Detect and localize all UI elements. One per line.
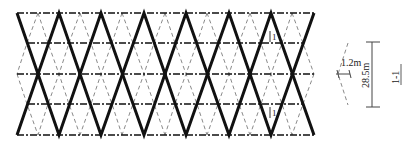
diagrid-elevation-diagram: 1 1 1.2m 28.5m 1-1	[0, 0, 413, 145]
section-marker-bottom: 1	[270, 107, 277, 118]
section-title: 1-1	[390, 71, 401, 84]
height-dimension-label: 28.5m	[360, 63, 371, 89]
svg-text:1: 1	[272, 32, 277, 42]
section-marker-top: 1	[270, 31, 277, 42]
svg-text:1: 1	[272, 108, 277, 118]
section-detail: 1.2m 28.5m 1-1	[336, 42, 401, 107]
module-width-label: 1.2m	[341, 57, 362, 68]
